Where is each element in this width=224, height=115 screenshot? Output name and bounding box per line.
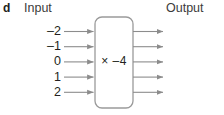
function-machine-diagram: d Input Output –2 –1 0 1 2 × –: [0, 0, 224, 115]
input-value-5: 2: [35, 86, 61, 99]
input-value-1: –2: [35, 25, 61, 38]
input-value-4: 1: [35, 71, 61, 84]
input-value-2: –1: [35, 40, 61, 53]
input-value-3: 0: [35, 55, 61, 68]
input-arrows: [64, 32, 94, 93]
machine-operation-label: × –4: [95, 54, 133, 68]
output-arrows: [133, 32, 163, 93]
